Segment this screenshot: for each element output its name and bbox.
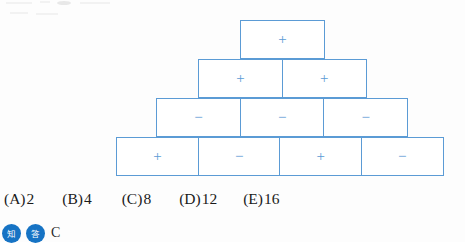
answer-choice-a-tag: (A) [4,190,26,208]
pyramid-row-4: + − + − [116,137,444,176]
pyramid-cell: − [198,137,281,176]
answer-choice-d[interactable]: (D)12 [179,190,217,208]
pyramid-cell: + [198,59,283,98]
answer-choice-c-value: 8 [143,190,151,208]
pyramid-row-2: + + [198,59,367,98]
pyramid-cell: + [116,137,199,176]
answer-choice-d-value: 12 [202,190,218,208]
answer-choice-e-tag: (E) [243,190,263,208]
answer-choice-a[interactable]: (A)2 [4,190,34,208]
pyramid-row-3: − − − [156,98,408,137]
pyramid-cell: − [361,137,444,176]
answer-choice-e[interactable]: (E)16 [243,190,279,208]
answer-choice-d-tag: (D) [179,190,201,208]
pyramid-cell: + [240,20,325,59]
sign-glyph: + [236,71,244,86]
answer-letter: C [51,225,60,241]
answer-choice-e-value: 16 [264,190,280,208]
sign-glyph: + [320,71,328,86]
sign-pyramid-diagram: + + + − − − + [0,0,465,182]
answer-choice-a-value: 2 [27,190,35,208]
answer-badge-icon[interactable]: 答 [26,224,45,243]
sign-glyph: − [361,110,369,125]
answer-choices: (A)2 (B)4 (C)8 (D)12 (E)16 [4,186,344,212]
pyramid-cell: − [323,98,408,137]
sign-glyph: − [278,110,286,125]
pyramid-cell: − [156,98,241,137]
answer-choice-b-tag: (B) [62,190,83,208]
sign-glyph: − [398,149,406,164]
answer-choice-c-tag: (C) [122,190,143,208]
answer-choice-c[interactable]: (C)8 [122,190,151,208]
pyramid-cell: − [240,98,325,137]
pyramid-cell: + [282,59,367,98]
sign-glyph: + [153,149,161,164]
pyramid-row-1: + [240,20,325,59]
sign-glyph: + [316,149,324,164]
sign-glyph: − [235,149,243,164]
sign-glyph: − [194,110,202,125]
pyramid-cell: + [279,137,362,176]
answer-choice-b-value: 4 [84,190,92,208]
footer-badges: 知 答 C [2,224,60,242]
sign-glyph: + [278,32,286,47]
answer-choice-b[interactable]: (B)4 [62,190,91,208]
knowledge-badge-icon[interactable]: 知 [2,224,21,243]
